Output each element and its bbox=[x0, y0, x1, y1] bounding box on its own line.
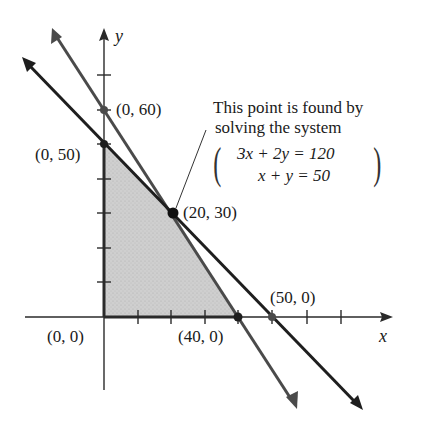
equation-2: x + y = 50 bbox=[258, 167, 330, 184]
point-label-20-30: (20, 30) bbox=[183, 204, 237, 221]
line-3x-plus-2y-eq-120 bbox=[51, 28, 298, 409]
equation-1: 3x + 2y = 120 bbox=[237, 145, 335, 162]
annotation-text: This point is found by solving the syste… bbox=[213, 98, 363, 138]
right-paren: ) bbox=[373, 142, 381, 186]
point-label-0-60: (0, 60) bbox=[116, 101, 161, 118]
point-label-0-0: (0, 0) bbox=[47, 328, 84, 345]
equation-system: ( 3x + 2y = 120 x + y = 50 ) bbox=[210, 140, 390, 190]
linear-programming-figure: y x (0, 60) (0, 50) (20, 30) (50, 0) (0,… bbox=[0, 0, 429, 432]
annotation-pointer bbox=[176, 130, 206, 208]
point-label-40-0: (40, 0) bbox=[178, 328, 223, 345]
point-0-50 bbox=[100, 140, 108, 148]
point-0-60 bbox=[100, 106, 108, 114]
point-50-0 bbox=[268, 313, 276, 321]
point-40-0 bbox=[234, 313, 243, 322]
left-paren: ( bbox=[213, 142, 221, 186]
point-label-50-0: (50, 0) bbox=[270, 289, 315, 306]
annotation-line-2: solving the system bbox=[213, 118, 363, 138]
point-label-0-50: (0, 50) bbox=[35, 146, 80, 163]
x-axis-label: x bbox=[379, 327, 387, 345]
y-axis-label: y bbox=[115, 27, 123, 45]
annotation-line-1: This point is found by bbox=[213, 98, 363, 118]
point-20-30 bbox=[168, 208, 179, 219]
